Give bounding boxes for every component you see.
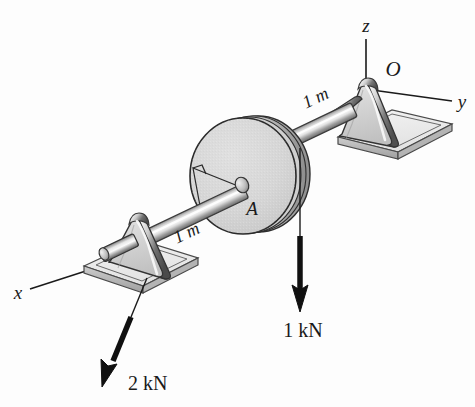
origin-label-O: O bbox=[385, 57, 400, 81]
engineering-figure: A bbox=[0, 0, 475, 407]
force-1kN-label: 1 kN bbox=[283, 319, 322, 341]
pulley-label-A: A bbox=[244, 198, 258, 219]
z-axis-label: z bbox=[361, 15, 370, 36]
figure-canvas: A bbox=[0, 0, 475, 407]
force-2kN-label: 2 kN bbox=[128, 372, 167, 394]
x-axis-label: x bbox=[13, 282, 23, 303]
y-axis-label: y bbox=[456, 91, 467, 112]
